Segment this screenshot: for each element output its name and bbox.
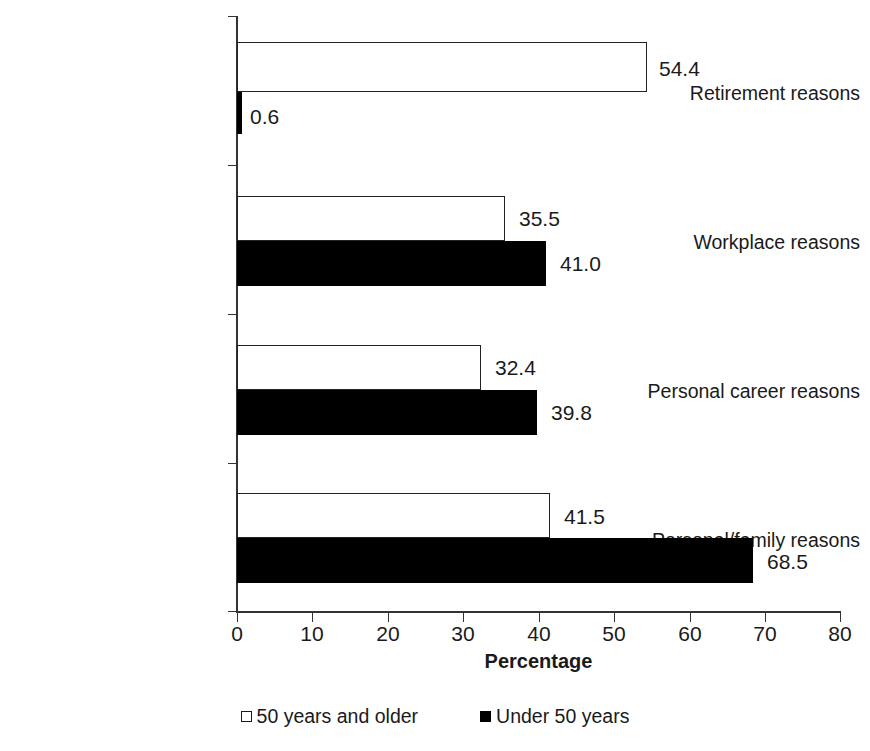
bar-value-label: 35.5 [519,208,560,229]
x-axis-tick-label: 30 [433,622,493,646]
x-axis-title: Percentage [237,650,840,673]
x-axis-tick [614,613,615,622]
bar-personal-career-under-50 [237,390,537,435]
x-axis-tick-label: 50 [584,622,644,646]
bar-value-label: 39.8 [551,402,592,423]
y-axis-tick [228,611,237,612]
y-axis-tick [228,314,237,315]
bar-personal-family-under-50 [237,538,753,583]
x-axis-tick [312,613,313,622]
bar-value-label: 41.5 [564,506,605,527]
x-axis-tick [388,613,389,622]
x-axis-tick-label: 0 [207,622,267,646]
bar-value-label: 41.0 [560,253,601,274]
bar-value-label: 0.6 [250,106,279,127]
bar-value-label: 54.4 [659,58,700,79]
x-axis-tick-label: 60 [660,622,720,646]
category-label-personal-career: Personal career reasons [640,380,870,403]
x-axis-tick [840,613,841,622]
y-axis-tick [228,165,237,166]
hollow-square-icon [241,711,252,722]
legend: 50 years and older Under 50 years [0,705,870,728]
bar-workplace-under-50 [237,241,546,286]
bar-value-label: 32.4 [495,357,536,378]
x-axis-tick [765,613,766,622]
bar-personal-career-50-and-older [237,345,481,390]
x-axis-tick [690,613,691,622]
x-axis-tick-label: 10 [282,622,342,646]
y-axis-tick [228,16,237,17]
category-label-workplace: Workplace reasons [640,231,870,254]
bar-retirement-50-and-older [237,42,647,92]
x-axis-tick-label: 40 [509,622,569,646]
filled-square-icon [480,711,491,722]
x-axis-tick [237,613,238,622]
legend-label: Under 50 years [496,705,629,728]
bar-workplace-50-and-older [237,196,505,241]
x-axis-tick [463,613,464,622]
bar-chart: Retirement reasons 54.4 0.6 Workplace re… [0,0,870,751]
x-axis-tick-label: 70 [735,622,795,646]
bar-personal-family-50-and-older [237,493,550,538]
bar-retirement-under-50 [237,92,242,134]
bar-value-label: 68.5 [767,551,808,572]
x-axis-tick [539,613,540,622]
x-axis-tick-label: 80 [810,622,870,646]
legend-label: 50 years and older [257,705,419,728]
y-axis-tick [228,463,237,464]
legend-item-under-50: Under 50 years [480,705,629,728]
x-axis-tick-label: 20 [358,622,418,646]
category-label-retirement: Retirement reasons [640,82,870,105]
legend-item-50-and-older: 50 years and older [241,705,419,728]
